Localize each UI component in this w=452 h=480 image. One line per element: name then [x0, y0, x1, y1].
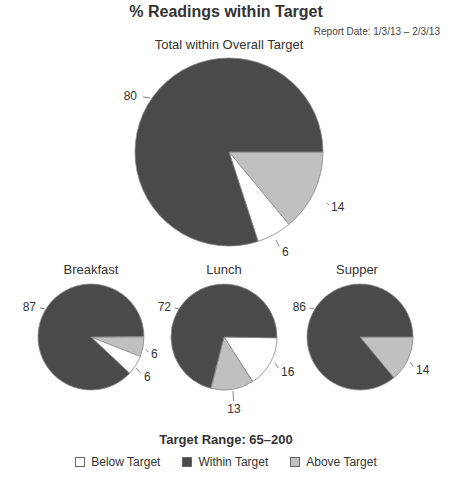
- leader-line: [40, 308, 45, 309]
- leader-line: [327, 203, 329, 205]
- swatch-below-icon: [75, 457, 85, 467]
- slice-value-label: 72: [158, 300, 172, 314]
- legend-label-within: Within Target: [198, 455, 268, 469]
- leader-line: [143, 97, 150, 98]
- swatch-within-icon: [182, 457, 192, 467]
- pie-charts: Total within Overall Target Breakfast Lu…: [0, 0, 452, 430]
- slice-value-label: 80: [124, 89, 138, 103]
- slice-value-label: 16: [281, 365, 295, 379]
- legend-item-below: Below Target: [75, 455, 160, 469]
- pie-breakfast: 6687: [23, 284, 158, 390]
- slice-value-label: 6: [282, 245, 289, 259]
- slice-value-label: 6: [144, 370, 151, 384]
- slice-within: [38, 284, 144, 390]
- slice-value-label: 14: [331, 200, 345, 214]
- leader-line: [233, 391, 234, 401]
- slice-value-label: 87: [23, 300, 37, 314]
- pie-total: 14680: [124, 58, 345, 259]
- legend-label-above: Above Target: [306, 455, 377, 469]
- legend-label-below: Below Target: [91, 455, 160, 469]
- legend: Below Target Within Target Above Target: [0, 455, 452, 469]
- slice-value-label: 13: [227, 402, 241, 416]
- legend-item-above: Above Target: [290, 455, 377, 469]
- swatch-above-icon: [290, 457, 300, 467]
- leader-line: [136, 368, 140, 373]
- leader-line: [410, 362, 413, 366]
- pie-title-lunch: Lunch: [206, 262, 241, 277]
- leader-line: [175, 308, 179, 309]
- pie-title-total: Total within Overall Target: [155, 37, 304, 52]
- legend-item-within: Within Target: [182, 455, 268, 469]
- pie-supper: 1486: [293, 284, 430, 390]
- pie-title-breakfast: Breakfast: [64, 262, 119, 277]
- slice-value-label: 14: [416, 363, 430, 377]
- pie-title-supper: Supper: [336, 262, 379, 277]
- leader-line: [275, 363, 278, 368]
- leader-line: [310, 308, 314, 309]
- slice-value-label: 6: [151, 347, 158, 361]
- leader-line: [276, 240, 279, 247]
- pie-lunch: 161372: [158, 284, 295, 416]
- leader-line: [146, 350, 149, 352]
- target-range: Target Range: 65–200: [0, 432, 452, 447]
- slice-value-label: 86: [293, 300, 307, 314]
